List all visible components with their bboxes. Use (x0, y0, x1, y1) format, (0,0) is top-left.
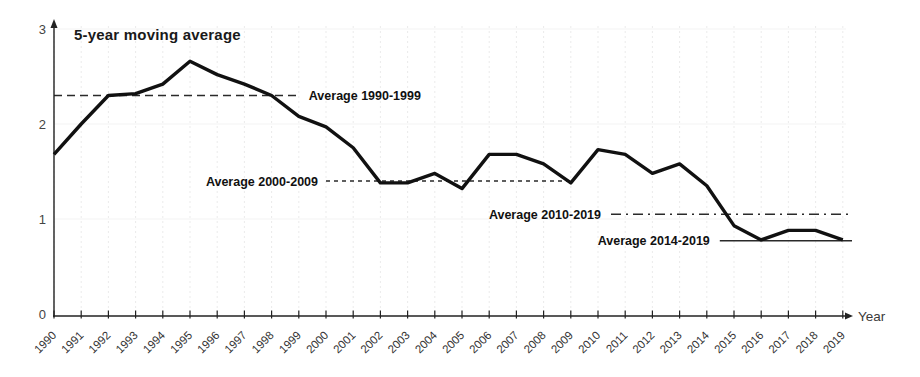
chart-figure: 5-year moving average 199019911992199319… (0, 0, 920, 377)
x-axis-arrow (845, 313, 853, 320)
average-label: Average 2010-2019 (489, 208, 601, 222)
x-tick-label: 1997 (222, 329, 249, 356)
chart-title: 5-year moving average (74, 26, 241, 43)
x-tick-label: 2005 (440, 329, 467, 356)
x-tick-label: 2012 (630, 329, 657, 356)
x-tick-label: 2004 (413, 329, 440, 356)
x-tick-label: 2018 (793, 329, 820, 356)
x-tick-label: 2013 (657, 329, 684, 356)
x-tick-label: 1993 (113, 329, 140, 356)
x-tick-label: 2001 (331, 329, 358, 356)
x-tick-label: 2011 (604, 329, 630, 355)
average-label: Average 2000-2009 (206, 175, 318, 189)
y-tick-label: 0 (39, 307, 46, 322)
x-tick-label: 1994 (141, 329, 168, 356)
line-chart: 1990199119921993199419951996199719981999… (0, 0, 920, 377)
y-tick-label: 2 (39, 117, 46, 132)
average-label: Average 1990-1999 (309, 89, 421, 103)
x-tick-label: 2010 (576, 329, 603, 356)
x-tick-label: 1998 (249, 329, 276, 356)
x-tick-label: 2015 (712, 329, 739, 356)
x-tick-label: 2009 (549, 329, 576, 356)
x-tick-label: 2014 (685, 329, 712, 356)
x-tick-label: 1999 (277, 329, 304, 356)
x-tick-label: 2008 (521, 329, 548, 356)
x-tick-label: 2007 (494, 329, 521, 356)
x-tick-label: 2019 (821, 329, 848, 356)
x-tick-label: 2002 (358, 329, 385, 356)
x-tick-label: 2017 (766, 329, 793, 356)
x-tick-label: 2006 (467, 329, 494, 356)
y-tick-label: 3 (39, 22, 46, 37)
x-tick-label: 1990 (32, 329, 59, 356)
x-tick-label: 1991 (59, 329, 86, 356)
moving-average-line (54, 61, 843, 240)
x-axis-title: Year (858, 309, 886, 324)
y-tick-label: 1 (39, 212, 46, 227)
x-tick-label: 1995 (168, 329, 195, 356)
x-tick-label: 1996 (195, 329, 222, 356)
average-label: Average 2014-2019 (598, 234, 710, 248)
y-axis-arrow (51, 19, 58, 28)
x-tick-label: 2016 (739, 329, 766, 356)
x-tick-label: 2000 (304, 329, 331, 356)
x-tick-label: 1992 (86, 329, 113, 356)
x-tick-label: 2003 (385, 329, 412, 356)
